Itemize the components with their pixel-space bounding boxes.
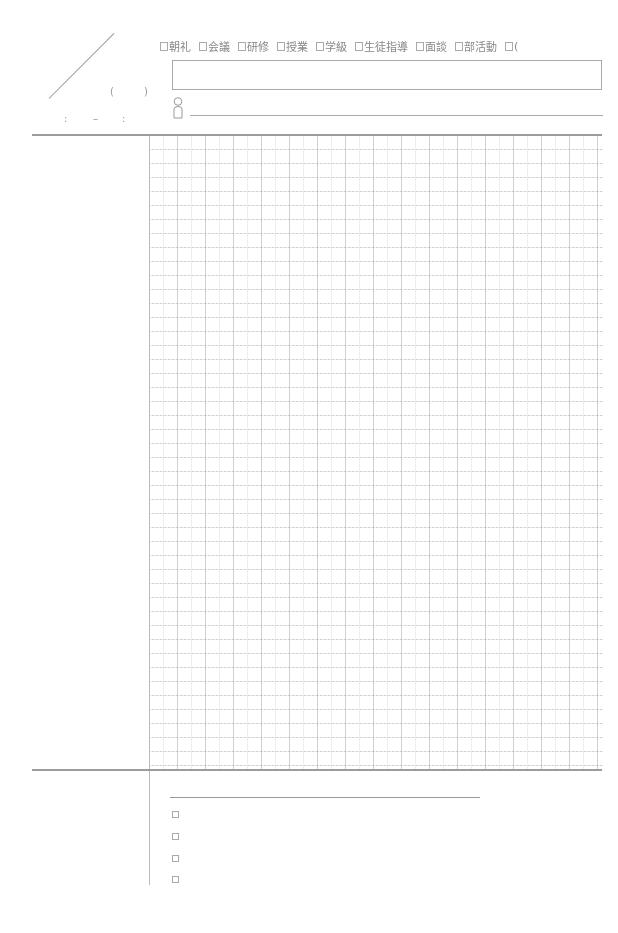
category-chorei[interactable]: 朝礼 <box>160 38 191 54</box>
footer-divider <box>32 769 602 771</box>
summary-line[interactable] <box>170 797 480 798</box>
category-bukatsudo[interactable]: 部活動 <box>455 38 497 54</box>
checkbox-icon[interactable] <box>172 876 179 883</box>
weekday-open-paren: ( <box>110 86 114 97</box>
category-jugyo[interactable]: 授業 <box>277 38 308 54</box>
checkbox-icon[interactable] <box>416 42 424 51</box>
checkbox-icon[interactable] <box>277 42 285 51</box>
todo-item[interactable] <box>172 833 180 840</box>
category-kaigi[interactable]: 会議 <box>199 38 230 54</box>
checkbox-icon[interactable] <box>505 42 513 51</box>
time-end-colon: : <box>122 113 125 124</box>
category-checklist: 朝礼 会議 研修 授業 学級 生徒指導 面談 部活動 () <box>160 38 618 54</box>
checkbox-icon[interactable] <box>172 811 179 818</box>
person-icon <box>172 97 184 119</box>
left-notes-column[interactable] <box>32 136 149 769</box>
todo-item[interactable] <box>172 876 180 883</box>
note-grid-area[interactable] <box>150 136 603 770</box>
checkbox-icon[interactable] <box>316 42 324 51</box>
topic-input-box[interactable] <box>172 60 602 90</box>
checkbox-icon[interactable] <box>160 42 168 51</box>
checkbox-icon[interactable] <box>172 833 179 840</box>
category-kenshu[interactable]: 研修 <box>238 38 269 54</box>
checkbox-icon[interactable] <box>199 42 207 51</box>
checkbox-icon[interactable] <box>238 42 246 51</box>
category-seito-shido[interactable]: 生徒指導 <box>355 38 408 54</box>
checkbox-icon[interactable] <box>172 855 179 862</box>
person-name-line[interactable] <box>190 115 603 116</box>
category-other[interactable]: () <box>505 38 618 54</box>
weekday-close-paren: ) <box>144 86 148 97</box>
todo-item[interactable] <box>172 855 180 862</box>
time-dash: – <box>93 113 98 124</box>
category-gakkyu[interactable]: 学級 <box>316 38 347 54</box>
todo-item[interactable] <box>172 811 180 818</box>
date-slash-divider <box>49 33 115 99</box>
time-start-colon: : <box>64 113 67 124</box>
checkbox-icon[interactable] <box>355 42 363 51</box>
category-mendan[interactable]: 面談 <box>416 38 447 54</box>
checkbox-icon[interactable] <box>455 42 463 51</box>
